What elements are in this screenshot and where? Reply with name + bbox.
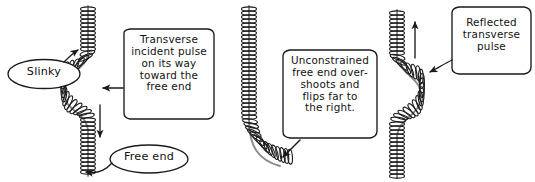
slinky-coil-panel-3 <box>390 11 425 178</box>
reflected-callout-leader <box>430 60 452 72</box>
callout-free-end-shape <box>110 145 188 173</box>
slinky-panel-1 <box>60 6 100 176</box>
figure-artwork <box>0 0 535 182</box>
callout-slinky-shape <box>8 60 80 89</box>
callout-reflected-pulse-shape <box>452 7 531 74</box>
slinky-panel-3 <box>390 10 425 178</box>
slinky-coil-panel-1 <box>60 7 95 174</box>
slinky-reflection-figure: Slinky Transverse incident pulse on its … <box>0 0 535 182</box>
free-end-leader-arrow <box>86 163 112 173</box>
callout-overshoot-shape <box>283 50 377 138</box>
callout-incident-pulse-shape <box>124 29 214 119</box>
